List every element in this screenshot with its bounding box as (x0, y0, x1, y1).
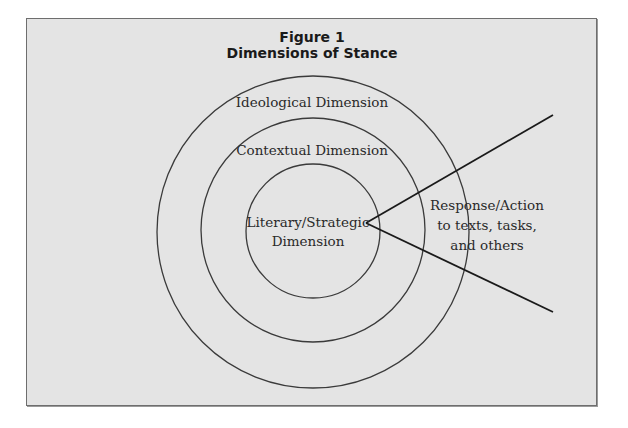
response-label-line2: to texts, tasks, (437, 217, 537, 233)
outer-circle (157, 76, 469, 388)
ideological-dimension-label: Ideological Dimension (236, 94, 389, 110)
response-label-line1: Response/Action (430, 197, 544, 213)
contextual-dimension-label: Contextual Dimension (236, 142, 388, 158)
figure-number: Figure 1 (279, 29, 344, 45)
figure-title: Dimensions of Stance (227, 45, 398, 61)
literary-strategic-label-line1: Literary/Strategic (247, 214, 370, 230)
inner-circle (246, 164, 380, 298)
response-label-line3: and others (450, 237, 523, 253)
stance-diagram: Figure 1 Dimensions of Stance Ideologica… (0, 0, 628, 428)
literary-strategic-label-line2: Dimension (272, 233, 345, 249)
